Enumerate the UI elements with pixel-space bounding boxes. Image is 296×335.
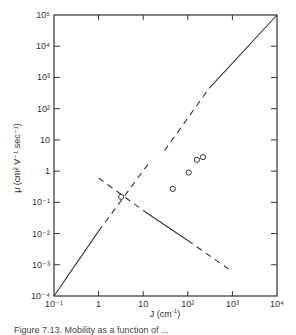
series-lines: [54, 15, 277, 296]
data-point-circle: [119, 194, 124, 199]
data-point-circle: [186, 170, 191, 175]
axis-ticks: [54, 15, 277, 296]
x-tick-labels: 10⁻¹11010²10³10⁴: [45, 299, 284, 309]
y-tick-label: 1: [45, 166, 50, 176]
x-tick-label: 10²: [181, 299, 194, 309]
y-tick-label: 10⁵: [36, 10, 50, 20]
rising-upper-solid-segment: [209, 15, 277, 88]
y-axis-title: μ (cm² V⁻¹ sec⁻¹): [12, 123, 22, 193]
x-tick-label: 10³: [226, 299, 239, 309]
data-point-circle: [200, 155, 205, 160]
plot-frame: [54, 15, 277, 296]
y-tick-label: 10⁻³: [32, 260, 50, 270]
x-tick-label: 1: [96, 299, 101, 309]
descending-solid-segment: [143, 210, 188, 240]
y-tick-label: 10⁴: [36, 41, 50, 51]
rising-upper-dashed-segment: [164, 88, 209, 150]
y-tick-label: 10³: [37, 72, 50, 82]
y-tick-label: 10⁻⁴: [31, 291, 50, 301]
x-tick-label: 10⁴: [270, 299, 284, 309]
descending-dashed-segment: [188, 240, 233, 271]
rising-lower-solid-segment: [54, 231, 99, 296]
y-tick-label: 10²: [37, 104, 50, 114]
y-tick-label: 10: [40, 135, 50, 145]
data-points: [119, 155, 206, 200]
y-tick-label: 10⁻¹: [32, 197, 50, 207]
x-tick-label: 10: [138, 299, 148, 309]
x-axis-title: J (cm-1): [150, 308, 180, 319]
data-point-circle: [170, 186, 175, 191]
data-point-circle: [194, 157, 199, 162]
figure-caption: Figure 7.13. Mobility as a function of .…: [14, 325, 169, 335]
y-tick-labels: 10⁻⁴10⁻³10⁻²10⁻¹11010²10³10⁴10⁵: [31, 10, 50, 301]
y-tick-label: 10⁻²: [32, 229, 50, 239]
